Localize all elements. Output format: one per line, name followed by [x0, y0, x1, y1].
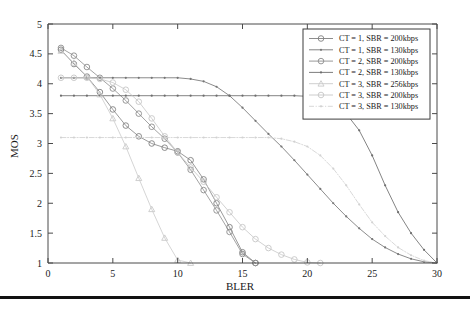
data-point-marker — [215, 86, 217, 88]
data-point-marker — [384, 184, 386, 186]
data-point-marker — [423, 249, 425, 251]
y-tick-label: 1.5 — [30, 228, 43, 239]
data-point-marker — [332, 202, 334, 204]
data-point-marker — [215, 95, 217, 97]
data-point-marker — [241, 95, 243, 97]
data-point-marker — [306, 145, 308, 147]
data-point-marker — [320, 105, 322, 107]
data-point-marker — [112, 95, 114, 97]
data-point-marker — [410, 232, 412, 234]
x-tick-label: 10 — [173, 268, 183, 279]
chart-canvas: 05101520253011.522.533.544.55 BLER MOS C… — [0, 0, 470, 296]
data-point-marker — [177, 136, 179, 138]
data-point-marker — [397, 246, 399, 248]
legend-item-label: CT = 2, SBR = 200kbps — [339, 57, 418, 66]
data-point-marker — [138, 77, 140, 79]
data-point-marker — [151, 77, 153, 79]
data-point-marker — [410, 258, 412, 260]
data-point-marker — [267, 133, 269, 135]
x-tick-label: 5 — [110, 268, 115, 279]
chart-legend[interactable]: CT = 1, SBR = 200kbpsCT = 1, SBR = 130kb… — [303, 29, 430, 119]
data-point-marker — [203, 95, 205, 97]
data-point-marker — [320, 71, 322, 73]
data-point-marker — [371, 221, 373, 223]
x-tick-label: 25 — [367, 268, 377, 279]
data-point-marker — [345, 184, 347, 186]
data-point-marker — [254, 136, 256, 138]
x-tick-label: 0 — [46, 268, 51, 279]
data-point-marker — [358, 129, 360, 131]
data-point-marker — [384, 246, 386, 248]
data-point-marker — [410, 254, 412, 256]
data-point-marker — [164, 136, 166, 138]
y-tick-label: 4.5 — [30, 48, 43, 59]
data-point-marker — [125, 136, 127, 138]
data-point-marker — [99, 136, 101, 138]
x-tick-label: 15 — [238, 268, 248, 279]
series-3 — [60, 95, 438, 265]
y-tick-label: 5 — [37, 19, 42, 30]
series-line — [61, 96, 437, 263]
data-point-marker — [203, 80, 205, 82]
x-tick-label: 20 — [302, 268, 312, 279]
legend-item-label: CT = 3, SBR = 130kbps — [339, 102, 418, 111]
data-point-marker — [384, 235, 386, 237]
legend-item-label: CT = 1, SBR = 130kbps — [339, 46, 418, 55]
data-point-marker — [125, 95, 127, 97]
y-tick-label: 1 — [37, 258, 42, 269]
y-tick-label: 2 — [37, 198, 42, 209]
data-point-marker — [138, 95, 140, 97]
legend-item-label: CT = 3, SBR = 200kbps — [339, 91, 418, 100]
data-point-marker — [228, 136, 230, 138]
data-point-marker — [60, 136, 62, 138]
data-point-marker — [228, 95, 230, 97]
data-point-marker — [112, 136, 114, 138]
x-tick-label: 30 — [432, 268, 442, 279]
data-point-marker — [86, 95, 88, 97]
legend-item-label: CT = 3, SBR = 256kbps — [339, 80, 418, 89]
data-point-marker — [423, 260, 425, 262]
data-point-marker — [358, 203, 360, 205]
data-point-marker — [241, 107, 243, 109]
data-point-marker — [151, 95, 153, 97]
y-tick-label: 3.5 — [30, 108, 43, 119]
data-point-marker — [280, 138, 282, 140]
data-point-marker — [280, 95, 282, 97]
y-tick-label: 2.5 — [30, 168, 43, 179]
data-point-marker — [267, 136, 269, 138]
data-point-marker — [190, 78, 192, 80]
data-point-marker — [280, 145, 282, 147]
bottom-divider-rule — [0, 296, 470, 299]
data-point-marker — [254, 120, 256, 122]
data-point-marker — [241, 136, 243, 138]
data-point-marker — [267, 95, 269, 97]
data-point-marker — [138, 136, 140, 138]
data-point-marker — [60, 95, 62, 97]
data-point-marker — [371, 238, 373, 240]
data-point-marker — [190, 95, 192, 97]
y-tick-label: 4 — [37, 78, 42, 89]
data-point-marker — [151, 136, 153, 138]
y-tick-label: 3 — [37, 138, 42, 149]
data-point-marker — [86, 136, 88, 138]
legend-item-label: CT = 1, SBR = 200kbps — [339, 34, 418, 43]
legend-item-label: CT = 2, SBR = 130kbps — [339, 68, 418, 77]
series-5 — [58, 75, 323, 266]
data-point-marker — [293, 159, 295, 161]
data-point-marker — [293, 95, 295, 97]
data-point-marker — [319, 188, 321, 190]
data-point-marker — [215, 136, 217, 138]
data-point-marker — [164, 77, 166, 79]
data-point-marker — [73, 95, 75, 97]
data-point-marker — [306, 173, 308, 175]
data-point-marker — [332, 167, 334, 169]
y-axis-title: MOS — [8, 134, 20, 158]
series-0 — [58, 47, 258, 266]
data-point-marker — [293, 141, 295, 143]
data-point-marker — [345, 215, 347, 217]
data-point-marker — [397, 211, 399, 213]
data-point-marker — [320, 49, 322, 51]
data-point-marker — [73, 136, 75, 138]
figure-chart-mos-vs-bler: 05101520253011.522.533.544.55 BLER MOS C… — [0, 0, 470, 309]
data-point-marker — [177, 95, 179, 97]
